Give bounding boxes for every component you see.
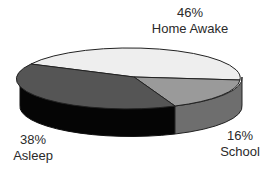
label-asleep: 38% Asleep	[10, 132, 56, 164]
label-school-percent: 16%	[216, 128, 264, 144]
label-home-awake-name: Home Awake	[150, 21, 230, 37]
label-home-awake-percent: 46%	[150, 5, 230, 21]
label-home-awake: 46% Home Awake	[150, 5, 230, 37]
label-school: 16% School	[216, 128, 264, 160]
label-asleep-percent: 38%	[10, 132, 56, 148]
label-school-name: School	[216, 144, 264, 160]
label-asleep-name: Asleep	[10, 148, 56, 164]
